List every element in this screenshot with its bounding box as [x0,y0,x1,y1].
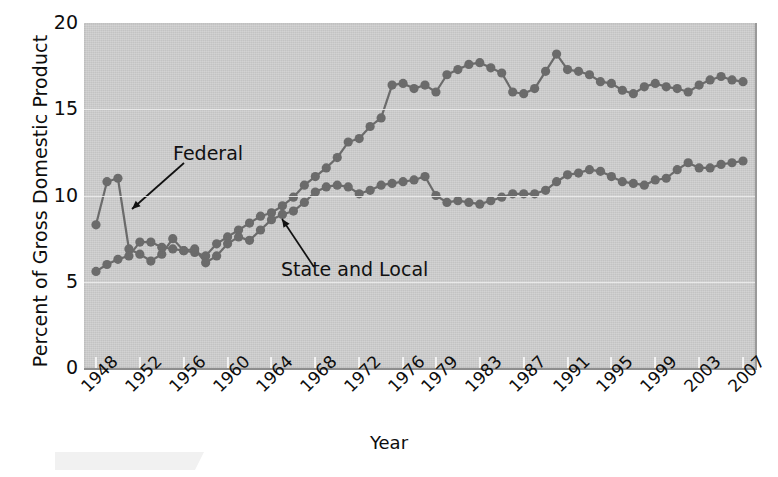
x-tick-label: 1991 [549,351,594,396]
x-tick-label: 1995 [592,351,637,396]
x-tick-label: 1979 [417,351,462,396]
x-tick-label: 1968 [296,351,341,396]
x-tick-label: 1972 [340,351,385,396]
x-tick-label: 1952 [121,351,166,396]
x-tick-label: 1976 [384,351,429,396]
page-corner-tab [55,452,195,470]
x-axis-ticks: 1948195219561960196419681972197619791983… [0,0,778,477]
x-axis-title: Year [0,432,778,453]
chart-figure: Percent of Gross Domestic Product 051015… [0,0,778,477]
annotation-federal: Federal [173,142,243,164]
x-tick-label: 1964 [252,351,297,396]
x-tick-label: 1999 [636,351,681,396]
x-tick-label: 1987 [505,351,550,396]
x-tick-label: 2003 [680,351,725,396]
x-tick-label: 2007 [724,351,769,396]
annotation-state-and-local: State and Local [281,258,428,280]
x-tick-label: 1948 [77,351,122,396]
x-tick-label: 1960 [209,351,254,396]
x-tick-label: 1956 [165,351,210,396]
x-tick-label: 1983 [461,351,506,396]
